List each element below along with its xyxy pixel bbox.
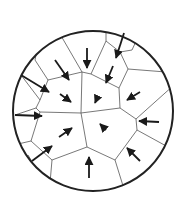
arrow-icon — [139, 121, 159, 122]
cell-edge — [136, 85, 174, 119]
cell-edge — [81, 72, 82, 113]
arrow-icon — [15, 115, 42, 116]
cell-edge — [136, 119, 137, 130]
arrow-icon — [127, 148, 140, 161]
arrow-icon — [106, 66, 113, 83]
cell-edge — [120, 52, 128, 69]
cell-edge — [81, 113, 87, 147]
arrow-icon — [127, 92, 140, 100]
arrow-icon — [59, 128, 72, 137]
outer-circle — [13, 31, 173, 191]
cell-edge — [119, 88, 120, 108]
cell-edge — [137, 130, 168, 147]
arrow-icon — [60, 94, 71, 102]
cell-edge — [21, 75, 40, 100]
cell-edge — [36, 108, 40, 112]
cell-edge — [36, 100, 40, 108]
arrow-icon — [32, 146, 52, 161]
cell-edge — [60, 34, 82, 72]
cell-edge — [120, 108, 136, 119]
cell-diagram — [0, 0, 186, 208]
cell-edge — [120, 50, 132, 52]
arrow-icon — [21, 75, 49, 92]
arrow-icon — [100, 124, 106, 130]
cell-edge — [82, 72, 91, 74]
cell-edge — [119, 69, 128, 88]
cell-edge — [81, 108, 120, 113]
cell-edge — [52, 147, 87, 160]
cell-edge — [87, 147, 115, 160]
cell-edge — [35, 60, 48, 80]
cell-edge — [91, 74, 119, 88]
arrow-icon — [95, 96, 98, 103]
cell-edge — [31, 141, 52, 160]
diagram-canvas: Polygonal cells in a circle with inward … — [0, 0, 186, 208]
cell-edge — [91, 41, 106, 74]
cell-edge — [15, 108, 36, 115]
cell-edge — [40, 112, 81, 113]
